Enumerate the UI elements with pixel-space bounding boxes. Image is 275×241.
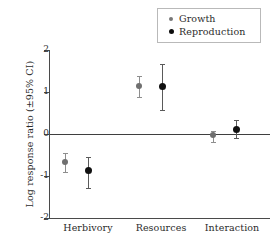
x-axis-line [49, 218, 270, 219]
legend-label-reproduction: Reproduction [179, 25, 246, 38]
legend-item-growth: Growth [163, 12, 255, 25]
legend-item-reproduction: Reproduction [163, 25, 255, 38]
zero-reference-line [50, 134, 270, 135]
y-tick-label-1: 1 [29, 86, 49, 96]
x-tick-label-interaction: Interaction [190, 222, 274, 233]
gray-dot-icon [163, 17, 179, 21]
y-tick-1: 1 [0, 92, 275, 93]
y-tick-neg1: -1 [0, 176, 275, 177]
y-tick-label-neg2: -2 [29, 212, 49, 222]
black-dot-icon [163, 29, 179, 34]
y-tick-label-0: 0 [29, 128, 49, 138]
y-tick-label-2: 2 [29, 44, 49, 54]
y-tick-2: 2 [0, 50, 275, 51]
legend-label-growth: Growth [179, 12, 216, 25]
y-tick-label-neg1: -1 [29, 170, 49, 180]
chart-figure: Growth Reproduction Log response ratio (… [0, 0, 275, 241]
chart-legend: Growth Reproduction [157, 8, 261, 43]
